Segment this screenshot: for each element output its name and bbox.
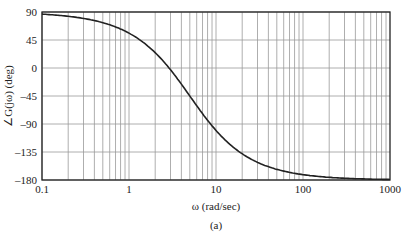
x-tick-label: 10 xyxy=(211,183,223,195)
x-tick-label: 1 xyxy=(126,183,132,195)
x-tick-label: 0.1 xyxy=(35,183,49,195)
y-tick-label: 45 xyxy=(26,34,38,46)
y-tick-label: –45 xyxy=(20,90,38,102)
y-tick-label: –180 xyxy=(14,174,38,186)
phase-plot: 90450–45–90–135–1800.11101001000ω (rad/s… xyxy=(0,0,404,252)
y-tick-label: –90 xyxy=(20,118,38,130)
y-tick-label: –135 xyxy=(14,146,38,158)
y-tick-label: 0 xyxy=(32,62,38,74)
y-tick-label: 90 xyxy=(26,6,38,18)
caption: (a) xyxy=(210,219,223,232)
y-axis-label: ∠G(jω) (deg) xyxy=(2,65,15,127)
x-tick-label: 1000 xyxy=(379,183,402,195)
x-tick-label: 100 xyxy=(295,183,312,195)
x-axis-label: ω (rad/sec) xyxy=(192,200,241,213)
